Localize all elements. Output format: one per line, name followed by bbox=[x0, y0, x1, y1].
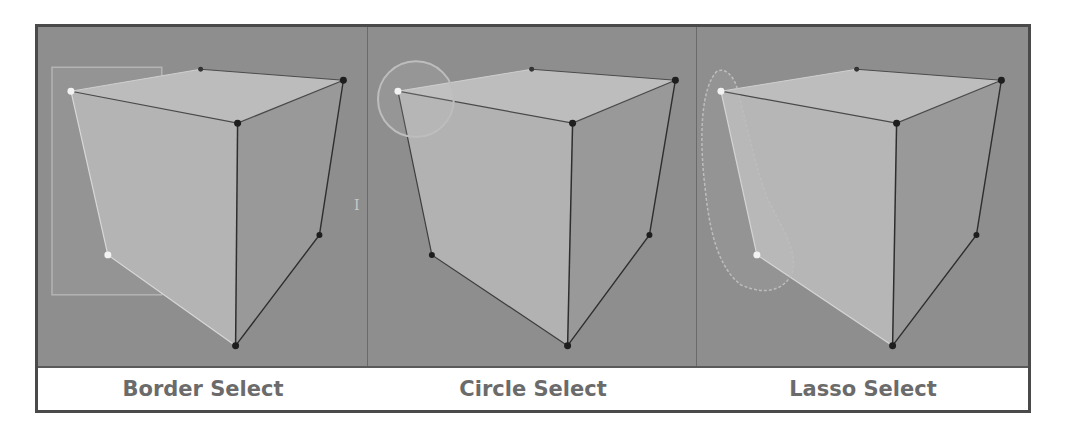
figure-frame: I bbox=[35, 24, 1031, 413]
caption-border-select: Border Select bbox=[38, 368, 368, 410]
cube-mesh bbox=[368, 27, 695, 366]
viewport-border-select[interactable]: I bbox=[38, 27, 367, 366]
caption-row: Border Select Circle Select Lasso Select bbox=[38, 366, 1028, 410]
caption-circle-select: Circle Select bbox=[368, 368, 698, 410]
text-cursor-icon: I bbox=[354, 197, 360, 213]
cube-mesh bbox=[38, 27, 367, 366]
viewport-row: I bbox=[38, 27, 1028, 366]
viewport-circle-select[interactable] bbox=[367, 27, 695, 366]
viewport-lasso-select[interactable] bbox=[696, 27, 1028, 366]
cube-mesh bbox=[697, 27, 1028, 366]
caption-lasso-select: Lasso Select bbox=[698, 368, 1028, 410]
circle-select-brush bbox=[378, 61, 454, 137]
